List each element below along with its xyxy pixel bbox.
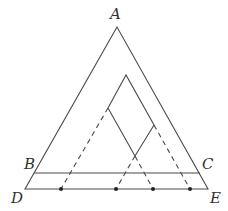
inner-rhombus (108, 75, 154, 156)
point-dot-1 (59, 187, 63, 191)
dashed-line-right (154, 125, 190, 189)
label-B: B (24, 157, 35, 172)
dashed-line-left (61, 108, 108, 189)
label-A: A (110, 7, 121, 22)
point-dot-2 (114, 187, 118, 191)
label-D: D (11, 191, 23, 206)
point-dot-3 (151, 187, 155, 191)
label-E: E (210, 191, 221, 206)
outer-triangle-ADE (25, 27, 208, 189)
label-C: C (202, 157, 213, 172)
geometry-diagram: A B C D E (0, 0, 228, 211)
diagram-svg (0, 0, 228, 211)
point-dot-4 (188, 187, 192, 191)
